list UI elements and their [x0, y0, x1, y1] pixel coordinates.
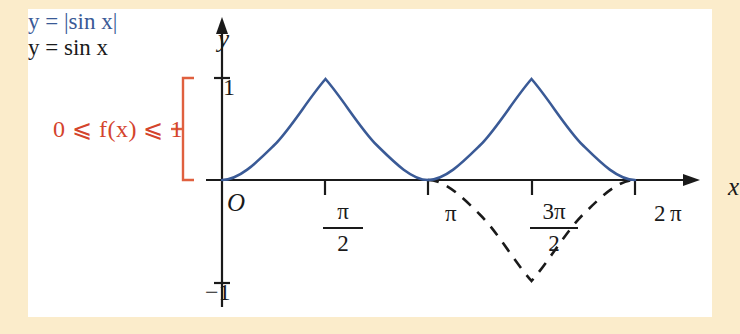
y-tick-label-1: 1: [223, 75, 235, 99]
fraction-bar: [323, 227, 363, 229]
curve-abs-sin-arch-1: [222, 79, 428, 180]
y-axis: [216, 17, 228, 307]
fraction-bar: [530, 227, 578, 229]
plot-panel: y x O 1 −1 0 ⩽ f(x) ⩽ 1 π 2 π 3π 2 2 π y…: [28, 9, 712, 317]
x-tick-numerator: π: [323, 199, 363, 226]
x-axis-label: x: [728, 174, 739, 199]
x-tick-label-pi: π: [445, 201, 457, 227]
origin-label: O: [227, 190, 245, 215]
x-axis: [206, 174, 700, 186]
x-tick-label-pi-over-2: π 2: [323, 199, 363, 257]
x-tick-label-3pi-over-2: 3π 2: [530, 199, 578, 257]
y-tick-label-neg-1: −1: [205, 280, 231, 304]
x-tick-label-2pi: 2 π: [654, 201, 682, 227]
curve-abs-sin-arch-2: [428, 79, 635, 180]
x-axis-ticks: [325, 180, 635, 195]
x-tick-numerator: 3π: [530, 199, 578, 226]
figure-frame: y x O 1 −1 0 ⩽ f(x) ⩽ 1 π 2 π 3π 2 2 π y…: [0, 0, 740, 334]
x-tick-denominator: 2: [530, 230, 578, 257]
range-inequality-annotation: 0 ⩽ f(x) ⩽ 1: [53, 117, 183, 141]
x-tick-denominator: 2: [323, 230, 363, 257]
plot-graphics: [28, 9, 712, 317]
y-axis-label: y: [218, 26, 229, 51]
